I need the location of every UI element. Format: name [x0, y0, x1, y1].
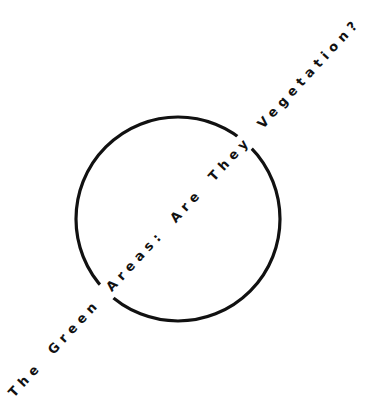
- figure: The Green Areas: Are They Vegetation?: [0, 0, 368, 417]
